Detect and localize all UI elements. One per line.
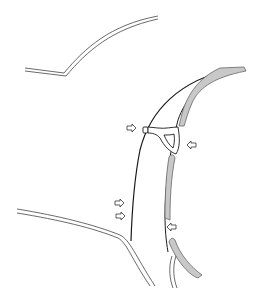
upper-body-line [25,16,158,76]
middle-seal-segment [165,155,175,220]
arrow-left-icon [167,223,176,231]
arrow-right-icon [115,199,124,207]
arrow-right-icon [127,124,136,132]
seal-illustration [0,0,259,300]
door-frame-outer-edge [131,69,232,241]
lower-body-line [17,209,155,286]
diagram-canvas [0,0,259,300]
arrow-group [115,124,196,231]
arrow-left-icon [187,141,196,149]
lower-inner-line [170,256,177,288]
arrow-right-icon [116,212,125,220]
upper-seal-segment [179,67,246,126]
seal-clip [143,127,179,154]
